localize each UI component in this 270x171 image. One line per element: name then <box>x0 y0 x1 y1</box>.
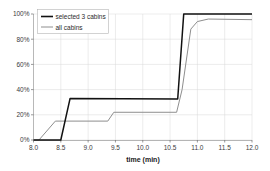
y-tick-label: 60% <box>16 61 29 68</box>
x-tick-label: 9.0 <box>84 144 93 151</box>
legend-label-all-cabins: all cabins <box>56 24 84 31</box>
x-tick-label: 11.5 <box>219 144 232 151</box>
x-axis-title: time (min) <box>126 156 159 164</box>
chart-legend: selected 3 cabins all cabins <box>38 10 109 34</box>
x-tick-label: 12.0 <box>246 144 259 151</box>
x-tick-label: 8.0 <box>29 144 38 151</box>
y-tick-label: 20% <box>16 111 29 118</box>
x-tick-label: 8.5 <box>56 144 65 151</box>
chart-container: 0%20%40%60%80%100% 8.08.59.09.510.010.51… <box>0 0 270 171</box>
y-tick-label: 0% <box>20 136 30 143</box>
x-tick-label: 11.0 <box>191 144 204 151</box>
x-tick-label: 10.5 <box>164 144 177 151</box>
y-tick-label: 100% <box>13 10 30 17</box>
x-axis-tick-labels: 8.08.59.09.510.010.511.011.512.0 <box>29 144 259 151</box>
x-tick-label: 9.5 <box>111 144 120 151</box>
y-tick-label: 40% <box>16 86 29 93</box>
cumulative-distribution-chart: 0%20%40%60%80%100% 8.08.59.09.510.010.51… <box>0 0 270 171</box>
legend-label-selected-3-cabins: selected 3 cabins <box>56 13 107 20</box>
y-tick-label: 80% <box>16 36 29 43</box>
x-tick-label: 10.0 <box>136 144 149 151</box>
